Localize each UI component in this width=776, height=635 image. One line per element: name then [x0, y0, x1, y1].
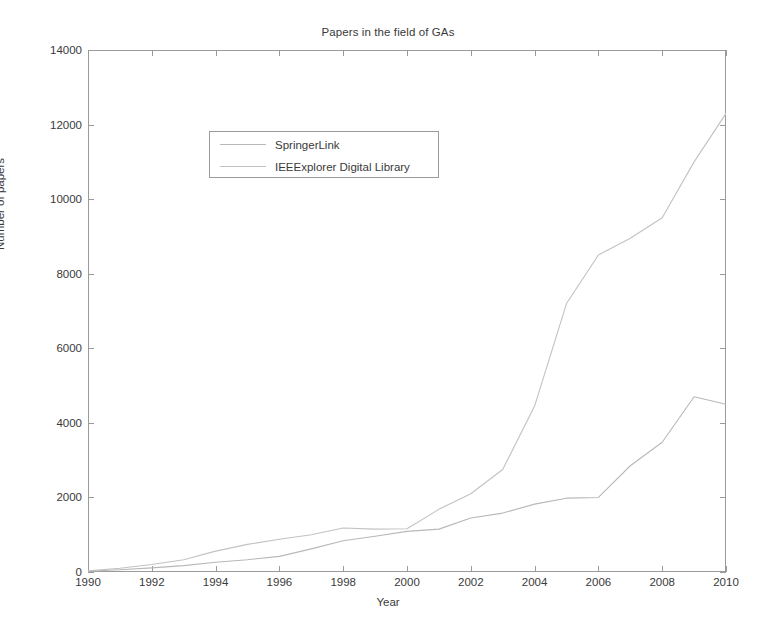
- x-tick-label: 1990: [75, 576, 101, 588]
- x-tick-label: 1998: [330, 576, 356, 588]
- series-line-springerlink: [88, 397, 726, 571]
- x-tick-label: 1994: [203, 576, 229, 588]
- x-tick-label: 2008: [649, 576, 675, 588]
- x-tick-label: 2010: [713, 576, 739, 588]
- y-tick-label: 10000: [50, 193, 82, 205]
- x-tick-label: 1992: [139, 576, 165, 588]
- x-tick-label: 2004: [522, 576, 548, 588]
- legend-item-springerlink: SpringerLink: [210, 133, 340, 156]
- chart-title: Papers in the field of GAs: [0, 26, 776, 38]
- plot-area: SpringerLink IEEExplorer Digital Library: [88, 50, 726, 572]
- y-tick-label: 12000: [50, 119, 82, 131]
- series-line-ieeexplorer-digital-library: [88, 113, 726, 570]
- x-tick-label: 2000: [394, 576, 420, 588]
- y-tick-label: 2000: [56, 491, 82, 503]
- x-tick-mark: [726, 50, 727, 56]
- y-tick-label: 8000: [56, 268, 82, 280]
- legend-line-sample-icon: [220, 166, 266, 167]
- y-tick-label: 6000: [56, 342, 82, 354]
- legend-line-sample-icon: [220, 144, 266, 145]
- y-tick-mark: [720, 572, 726, 573]
- y-axis-label: Number of papers: [0, 158, 6, 250]
- series-plot: [88, 50, 726, 572]
- y-tick-label: 4000: [56, 417, 82, 429]
- x-tick-label: 2002: [458, 576, 484, 588]
- legend-label: IEEExplorer Digital Library: [275, 161, 410, 173]
- y-tick-label: 14000: [50, 44, 82, 56]
- figure-canvas: Papers in the field of GAs Number of pap…: [0, 0, 776, 635]
- x-tick-mark: [726, 566, 727, 572]
- y-tick-mark: [88, 572, 94, 573]
- x-tick-label: 1996: [267, 576, 293, 588]
- legend-label: SpringerLink: [275, 139, 340, 151]
- legend: SpringerLink IEEExplorer Digital Library: [209, 131, 439, 178]
- x-axis-label: Year: [0, 596, 776, 608]
- x-tick-label: 2006: [586, 576, 612, 588]
- legend-item-ieeexplorer: IEEExplorer Digital Library: [210, 155, 410, 178]
